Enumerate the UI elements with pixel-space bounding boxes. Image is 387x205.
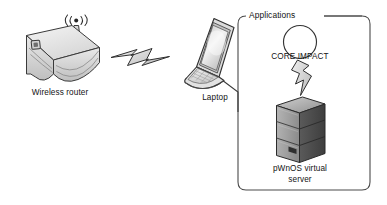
network-diagram-canvas: Applications Wireless router Laptop CORE… [0, 0, 387, 205]
server-label-line-2: server [288, 175, 311, 184]
applications-container-label: Applications [246, 10, 324, 20]
laptop-icon [185, 19, 234, 89]
core-impact-label: CORE IMPACT [252, 52, 348, 62]
server-label-line-1: pWnOS virtual [273, 164, 327, 173]
lightning-bolt-vertical-icon [292, 60, 312, 96]
lightning-bolt-horizontal-icon [111, 49, 170, 66]
wireless-router-label: Wireless router [8, 88, 112, 98]
laptop-label: Laptop [183, 93, 247, 103]
wireless-router-icon [27, 15, 100, 81]
server-tower-icon [277, 97, 326, 163]
pwnos-virtual-server-label: pWnOS virtual server [250, 163, 350, 185]
